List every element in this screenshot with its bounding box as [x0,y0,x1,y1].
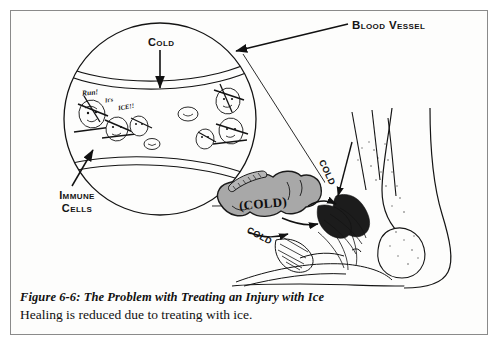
speech-its: It's [105,96,114,103]
label-blood-vessel: Blood Vessel [352,19,425,31]
caption-subtitle: Healing is reduced due to treating with … [20,306,480,323]
figure-caption: Figure 6-6: The Problem with Treating an… [20,290,480,323]
speech-run: Run! [82,87,99,98]
label-cold-top: Cold [148,36,174,48]
label-immune-cells-line2: Cells [62,202,92,214]
label-immune-cells-line1: Immune [59,189,95,201]
figure-page: Blood Vessel Cold Immune Cells Run! It's… [0,0,501,347]
label-immune-cells: Immune Cells [44,189,110,214]
caption-title: Figure 6-6: The Problem with Treating an… [20,290,480,305]
blood-vessel-pointer [236,24,348,51]
